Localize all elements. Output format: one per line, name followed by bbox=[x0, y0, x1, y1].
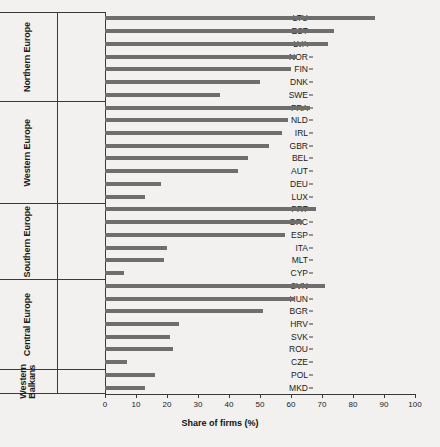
category-tick bbox=[309, 273, 313, 274]
bar-nor bbox=[105, 55, 297, 59]
bar-prt bbox=[105, 207, 316, 211]
bar-bgr bbox=[105, 309, 263, 313]
x-tick bbox=[105, 394, 106, 398]
bar-nld bbox=[105, 118, 288, 122]
bar-deu bbox=[105, 182, 161, 186]
x-tick-label-40: 40 bbox=[225, 400, 234, 409]
region-group-southern-europe: Southern Europe bbox=[0, 203, 105, 279]
category-label-hrv: HRV bbox=[262, 320, 308, 329]
x-tick bbox=[260, 394, 261, 398]
bar-dnk bbox=[105, 80, 260, 84]
x-tick-label-30: 30 bbox=[194, 400, 203, 409]
category-label-cyp: CYP bbox=[262, 269, 308, 278]
category-tick bbox=[309, 362, 313, 363]
category-tick bbox=[309, 107, 313, 108]
bar-ltu bbox=[105, 16, 375, 20]
region-group-label: Western Europe bbox=[0, 102, 56, 203]
category-label-pol: POL bbox=[262, 371, 308, 380]
category-tick bbox=[309, 323, 313, 324]
chart-figure: Northern EuropeWestern EuropeSouthern Eu… bbox=[0, 0, 440, 447]
x-tick bbox=[167, 394, 168, 398]
category-tick bbox=[309, 336, 313, 337]
category-tick bbox=[309, 94, 313, 95]
bar-hrv bbox=[105, 322, 179, 326]
x-axis-title: Share of firms (%) bbox=[0, 418, 440, 428]
bar-mkd bbox=[105, 386, 145, 390]
bar-gbr bbox=[105, 144, 269, 148]
x-tick-label-70: 70 bbox=[318, 400, 327, 409]
x-tick-label-0: 0 bbox=[103, 400, 107, 409]
category-label-mlt: MLT bbox=[262, 256, 308, 265]
region-group-western-balkans: Western Balkans bbox=[0, 369, 105, 394]
category-tick bbox=[309, 82, 313, 83]
category-tick bbox=[309, 145, 313, 146]
region-group-northern-europe: Northern Europe bbox=[0, 12, 105, 101]
bar-est bbox=[105, 29, 334, 33]
x-tick bbox=[322, 394, 323, 398]
bar-pol bbox=[105, 373, 155, 377]
x-tick-label-80: 80 bbox=[349, 400, 358, 409]
x-axis: 0102030405060708090100 bbox=[105, 394, 415, 395]
category-label-cze: CZE bbox=[262, 358, 308, 367]
category-tick bbox=[309, 247, 313, 248]
bar-cyp bbox=[105, 271, 124, 275]
bar-ita bbox=[105, 246, 167, 250]
category-tick bbox=[309, 69, 313, 70]
category-label-lux: LUX bbox=[262, 192, 308, 201]
category-tick bbox=[309, 298, 313, 299]
bar-lux bbox=[105, 195, 145, 199]
bar-svn bbox=[105, 284, 325, 288]
category-label-dnk: DNK bbox=[262, 78, 308, 87]
x-tick bbox=[136, 394, 137, 398]
plot-area: LTUESTLVANORFINDNKSWEFRANLDIRLGBRBELAUTD… bbox=[105, 12, 415, 394]
bar-fra bbox=[105, 106, 310, 110]
category-tick bbox=[309, 311, 313, 312]
category-tick bbox=[309, 132, 313, 133]
bar-mlt bbox=[105, 258, 164, 262]
category-label-ita: ITA bbox=[262, 243, 308, 252]
category-label-swe: SWE bbox=[262, 91, 308, 100]
bar-irl bbox=[105, 131, 282, 135]
category-tick bbox=[309, 158, 313, 159]
category-label-deu: DEU bbox=[262, 180, 308, 189]
x-tick bbox=[229, 394, 230, 398]
category-tick bbox=[309, 196, 313, 197]
region-group-label: Western Balkans bbox=[0, 370, 56, 393]
x-tick bbox=[291, 394, 292, 398]
x-tick-label-60: 60 bbox=[287, 400, 296, 409]
x-tick bbox=[353, 394, 354, 398]
category-tick bbox=[309, 234, 313, 235]
bar-svk bbox=[105, 335, 170, 339]
region-group-label: Northern Europe bbox=[0, 13, 56, 101]
category-label-bel: BEL bbox=[262, 154, 308, 163]
category-tick bbox=[309, 260, 313, 261]
x-tick-label-10: 10 bbox=[132, 400, 141, 409]
bar-rou bbox=[105, 347, 173, 351]
x-tick-label-20: 20 bbox=[163, 400, 172, 409]
x-tick-label-90: 90 bbox=[380, 400, 389, 409]
category-label-aut: AUT bbox=[262, 167, 308, 176]
x-tick bbox=[198, 394, 199, 398]
bar-grc bbox=[105, 220, 303, 224]
bar-lva bbox=[105, 42, 328, 46]
bar-esp bbox=[105, 233, 285, 237]
bar-fin bbox=[105, 67, 291, 71]
category-tick bbox=[309, 183, 313, 184]
category-label-mkd: MKD bbox=[262, 383, 308, 392]
group-axis: Northern EuropeWestern EuropeSouthern Eu… bbox=[0, 12, 105, 394]
category-label-rou: ROU bbox=[262, 345, 308, 354]
bar-aut bbox=[105, 169, 238, 173]
category-tick bbox=[309, 349, 313, 350]
category-label-svk: SVK bbox=[262, 332, 308, 341]
category-tick bbox=[309, 56, 313, 57]
category-tick bbox=[309, 120, 313, 121]
region-group-label: Central Europe bbox=[0, 280, 56, 368]
category-tick bbox=[309, 374, 313, 375]
x-tick-label-100: 100 bbox=[408, 400, 421, 409]
region-group-western-europe: Western Europe bbox=[0, 101, 105, 203]
category-tick bbox=[309, 171, 313, 172]
x-tick bbox=[415, 394, 416, 398]
bar-swe bbox=[105, 93, 220, 97]
category-tick bbox=[309, 387, 313, 388]
x-tick bbox=[384, 394, 385, 398]
